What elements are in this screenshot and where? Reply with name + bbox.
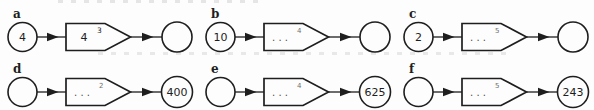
output-circle	[360, 22, 390, 52]
diagram-d: d . . . 2 400	[0, 55, 198, 110]
operation-base: . . .	[272, 87, 288, 98]
arrow-right-icon	[433, 88, 462, 96]
operation-exponent: 5	[495, 27, 499, 35]
diagram-c: c 2 . . . 5	[396, 0, 594, 55]
diagram-label: b	[211, 7, 219, 21]
diagram-f: f . . . 5 243	[396, 55, 594, 110]
output-circle	[162, 22, 192, 52]
diagram-label: e	[211, 62, 219, 76]
input-value: 4	[19, 31, 26, 44]
arrow-right-icon	[37, 33, 66, 41]
arrow-right-icon	[131, 88, 163, 96]
output-value: 400	[167, 86, 188, 99]
output-circle	[558, 22, 588, 52]
input-value: 2	[415, 31, 422, 44]
operation-base: . . .	[470, 87, 486, 98]
arrow-right-icon	[527, 33, 559, 41]
output-value: 243	[563, 86, 584, 99]
operation-base: . . .	[272, 32, 288, 43]
diagram-e: e . . . 4 625	[198, 55, 396, 110]
diagram-a: a 4 4 3	[0, 0, 198, 55]
arrow-right-icon	[433, 33, 462, 41]
operation-exponent: 4	[297, 82, 302, 90]
output-value: 625	[365, 86, 386, 99]
input-circle	[8, 78, 37, 107]
diagram-b: b 10 . . . 4	[198, 0, 396, 55]
diagram-label: a	[13, 7, 21, 21]
operation-exponent: 5	[495, 82, 499, 90]
diagram-label: f	[409, 62, 415, 76]
arrow-right-icon	[527, 88, 559, 96]
operation-base: 4	[81, 31, 88, 44]
operation-exponent: 4	[297, 27, 302, 35]
diagram-label: d	[13, 62, 22, 76]
arrow-right-icon	[235, 33, 264, 41]
arrow-right-icon	[235, 88, 264, 96]
arrow-right-icon	[131, 33, 163, 41]
operation-exponent: 3	[97, 26, 102, 35]
operation-exponent: 2	[99, 82, 103, 90]
arrow-right-icon	[329, 88, 361, 96]
input-circle	[404, 78, 433, 107]
arrow-right-icon	[329, 33, 361, 41]
operation-base: . . .	[74, 87, 90, 98]
diagram-grid: a 4 4 3 b 10	[0, 0, 594, 110]
input-circle	[206, 78, 235, 107]
operation-base: . . .	[470, 32, 486, 43]
worksheet-scan: a 4 4 3 b 10	[0, 0, 594, 110]
diagram-label: c	[409, 7, 416, 21]
input-value: 10	[214, 31, 228, 44]
arrow-right-icon	[37, 88, 66, 96]
